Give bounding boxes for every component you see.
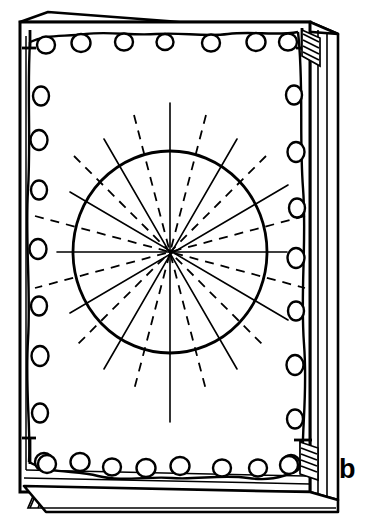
hole — [31, 130, 48, 150]
hole — [71, 453, 90, 471]
hole — [288, 302, 304, 321]
hole — [30, 239, 47, 259]
hole — [288, 142, 305, 162]
figure-container: b — [0, 0, 376, 531]
hole — [32, 404, 48, 423]
hole — [103, 459, 121, 476]
figure-label: b — [339, 456, 356, 483]
hole — [32, 346, 49, 366]
hole — [72, 34, 91, 52]
hole — [287, 355, 304, 375]
hole — [286, 86, 302, 105]
hole — [31, 181, 47, 200]
technical-line-drawing — [0, 0, 376, 531]
hole — [157, 34, 174, 50]
hatched-edge-bottom-right — [300, 442, 318, 480]
hole — [202, 35, 220, 52]
hole — [287, 410, 303, 429]
hole — [280, 456, 298, 474]
hole-group-top — [37, 33, 297, 54]
hole — [213, 460, 231, 477]
hole — [115, 34, 133, 51]
hole — [33, 87, 49, 106]
hole — [288, 248, 305, 268]
hole — [137, 459, 156, 477]
hole — [38, 455, 56, 473]
hole — [37, 37, 55, 54]
hole — [279, 34, 297, 51]
hole — [249, 460, 267, 477]
hole — [31, 297, 47, 316]
hole — [171, 457, 190, 475]
hole — [289, 199, 305, 218]
hole — [247, 33, 266, 51]
